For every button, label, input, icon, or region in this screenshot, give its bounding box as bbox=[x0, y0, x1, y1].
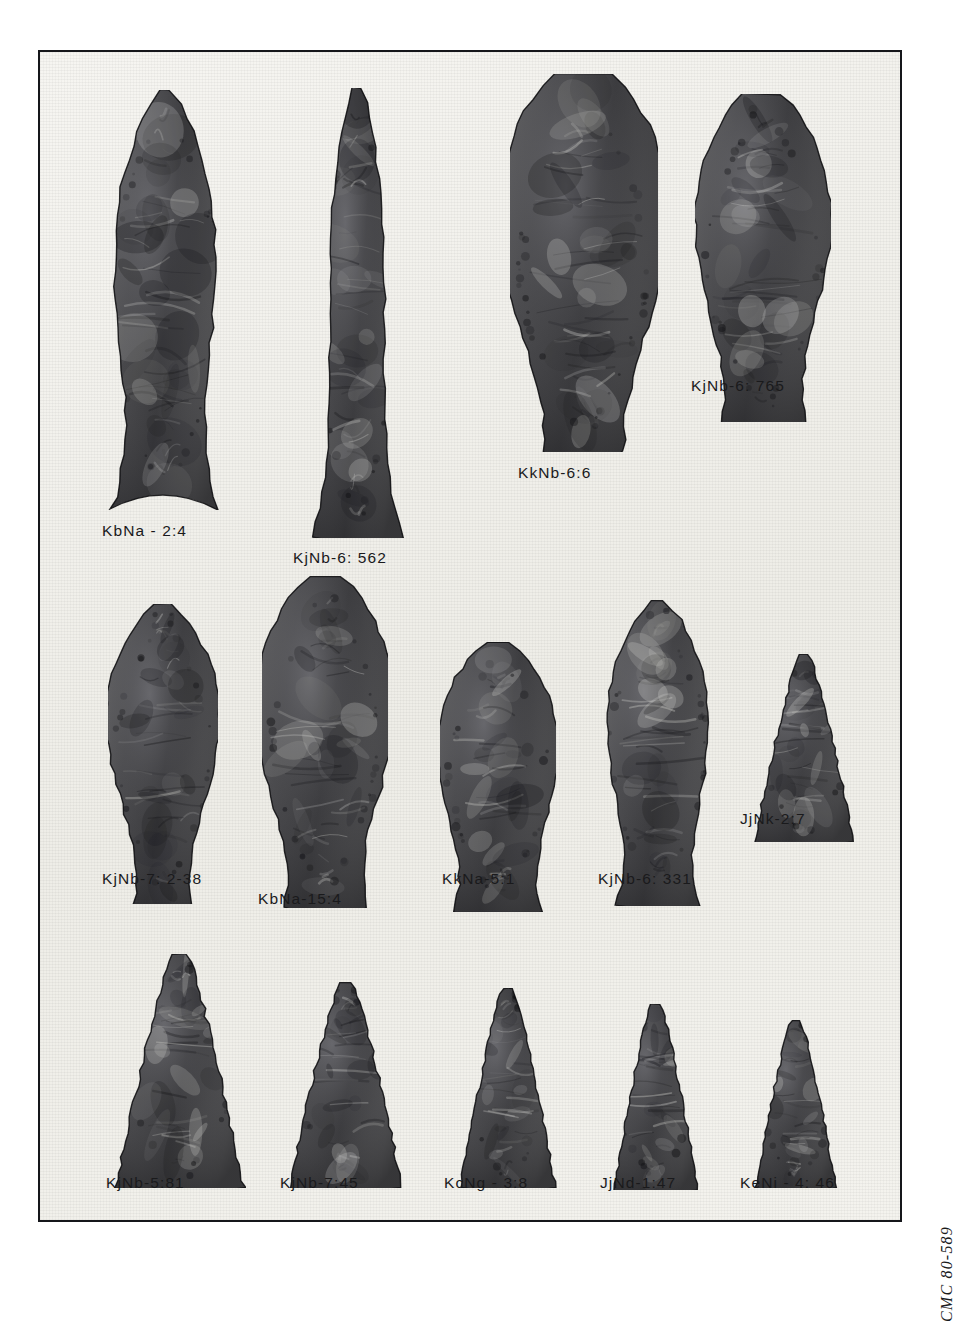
specimen-label: KcNg - 3:8 bbox=[444, 1174, 528, 1192]
specimen-kjnb-7-45 bbox=[288, 982, 404, 1188]
specimen-kcng-3-8 bbox=[458, 988, 558, 1188]
specimen-label: KeNi - 4: 46 bbox=[740, 1174, 835, 1192]
specimen-kjnb-6-331 bbox=[600, 600, 716, 906]
specimen-kjnb-6-562 bbox=[308, 88, 406, 538]
specimen-photo bbox=[612, 1004, 700, 1190]
specimen-label: KjNb-7:45 bbox=[280, 1174, 359, 1192]
plate-frame: KbNa - 2:4KjNb-6: 562KkNb-6:6KjNb-6: 765… bbox=[38, 50, 902, 1222]
specimen-photo bbox=[288, 982, 404, 1188]
specimen-kbna-2-4 bbox=[98, 90, 232, 510]
specimen-photo bbox=[262, 576, 388, 908]
specimen-jjnd-1-47 bbox=[612, 1004, 700, 1190]
specimen-kjnb-7-2-38 bbox=[108, 604, 218, 904]
archive-caption: CMC 80-589 bbox=[938, 1226, 956, 1322]
specimen-label: KjNb-6: 765 bbox=[691, 377, 785, 395]
specimen-label: JjNd-1:47 bbox=[600, 1174, 676, 1192]
specimen-label: KjNb-6: 562 bbox=[293, 549, 387, 567]
specimen-photo bbox=[510, 74, 658, 452]
specimen-stage: KbNa - 2:4KjNb-6: 562KkNb-6:6KjNb-6: 765… bbox=[40, 52, 900, 1220]
specimen-photo bbox=[114, 954, 246, 1188]
specimen-photo bbox=[98, 90, 232, 510]
specimen-label: KjNb-5:81 bbox=[106, 1174, 185, 1192]
specimen-photo bbox=[600, 600, 716, 906]
specimen-label: JjNk-2:7 bbox=[740, 810, 806, 828]
specimen-label: KjNb-6: 331 bbox=[598, 870, 692, 888]
specimen-label: KjNb-7: 2-38 bbox=[102, 870, 202, 888]
specimen-photo bbox=[754, 1020, 838, 1188]
specimen-kbna-15-4 bbox=[262, 576, 388, 908]
specimen-kjnb-6-765 bbox=[695, 94, 831, 422]
specimen-kknb-6-6 bbox=[510, 74, 658, 452]
specimen-photo bbox=[308, 88, 406, 538]
specimen-photo bbox=[108, 604, 218, 904]
specimen-keni-4-46 bbox=[754, 1020, 838, 1188]
specimen-photo bbox=[458, 988, 558, 1188]
specimen-label: KkNa-5:1 bbox=[442, 870, 515, 888]
specimen-photo bbox=[695, 94, 831, 422]
specimen-label: KbNa-15:4 bbox=[258, 890, 342, 908]
specimen-label: KkNb-6:6 bbox=[518, 464, 591, 482]
specimen-kjnb-5-81 bbox=[114, 954, 246, 1188]
specimen-label: KbNa - 2:4 bbox=[102, 522, 187, 540]
